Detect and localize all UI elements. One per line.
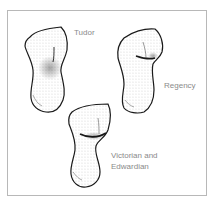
tudor-torso-drawing bbox=[25, 27, 67, 112]
torso-illustrations bbox=[0, 0, 212, 202]
label-regency: Regency bbox=[164, 81, 196, 91]
victorian-edwardian-torso-drawing bbox=[69, 104, 111, 187]
label-victorian-line2: Edwardian bbox=[111, 162, 149, 172]
label-victorian-line1: Victorian and bbox=[111, 151, 158, 161]
regency-torso-drawing bbox=[118, 29, 163, 113]
label-tudor: Tudor bbox=[74, 28, 95, 38]
